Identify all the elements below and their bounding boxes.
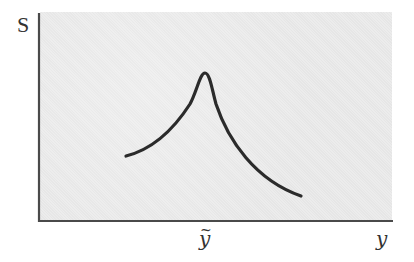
x-axis-label: y bbox=[376, 229, 387, 249]
s-curve bbox=[126, 73, 301, 196]
y-axis-label: S bbox=[17, 14, 29, 36]
peak-tick-label: y bbox=[199, 229, 210, 249]
